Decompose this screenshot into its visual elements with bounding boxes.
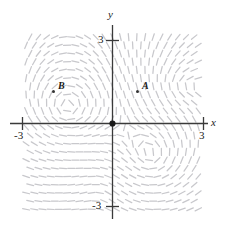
x-axis-tick-label-left: -3 [14, 130, 23, 141]
point-label-b: B [58, 81, 65, 91]
point-label-a: A [142, 81, 149, 91]
y-axis-tick-label-bottom: -3 [92, 200, 101, 211]
x-axis-label: x [211, 117, 216, 128]
y-axis-tick-label-top: 3 [98, 34, 104, 45]
axes-layer [0, 0, 226, 227]
slope-field-figure: y x 3 -3 -3 3 A B [0, 0, 226, 227]
origin-point-marker [109, 120, 115, 126]
point-marker-a [136, 90, 139, 93]
x-axis-tick-label-right: 3 [199, 130, 205, 141]
y-axis-label: y [108, 9, 113, 20]
point-marker-b [52, 90, 55, 93]
